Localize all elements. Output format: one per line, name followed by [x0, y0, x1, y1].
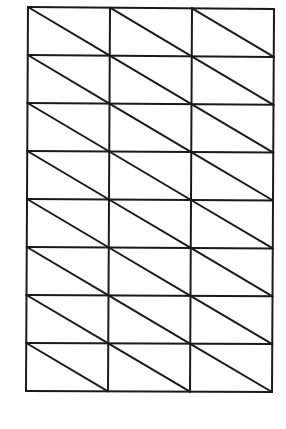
- horizontal-grid-line: [27, 247, 273, 248]
- cell-diagonal-line: [109, 200, 191, 248]
- cell-diagonal-line: [110, 56, 192, 105]
- cell-diagonal-line: [28, 55, 110, 104]
- horizontal-grid-line: [28, 103, 274, 105]
- horizontal-grid-line: [27, 199, 273, 201]
- cell-diagonal-line: [109, 295, 191, 343]
- cell-diagonal-line: [192, 8, 274, 57]
- cell-diagonal-line: [26, 343, 108, 391]
- cell-diagonal-line: [28, 103, 110, 152]
- horizontal-grid-line: [26, 343, 272, 344]
- horizontal-grid-line: [26, 391, 272, 392]
- triangulated-mesh-diagram: [0, 0, 286, 429]
- horizontal-grid-line: [27, 151, 273, 153]
- cell-diagonal-line: [192, 56, 274, 105]
- cell-diagonal-line: [28, 7, 110, 56]
- cell-diagonal-line: [109, 152, 191, 201]
- cell-diagonal-line: [191, 152, 273, 200]
- cell-diagonal-line: [27, 295, 109, 343]
- horizontal-grid-line: [28, 7, 274, 9]
- cell-diagonal-line: [27, 247, 109, 295]
- cell-diagonal-line: [191, 200, 273, 248]
- cell-diagonal-line: [192, 104, 274, 152]
- cell-diagonal-line: [110, 104, 192, 153]
- cell-diagonal-line: [190, 344, 272, 392]
- cell-diagonal-line: [110, 8, 192, 57]
- cell-diagonal-line: [27, 151, 109, 200]
- cell-diagonal-line: [108, 343, 190, 391]
- cell-diagonal-line: [109, 248, 191, 296]
- mesh-edges: [26, 7, 274, 392]
- horizontal-grid-line: [28, 55, 274, 57]
- horizontal-grid-line: [27, 295, 273, 296]
- cell-diagonal-line: [191, 248, 273, 296]
- cell-diagonal-line: [27, 199, 109, 248]
- cell-diagonal-line: [191, 296, 273, 344]
